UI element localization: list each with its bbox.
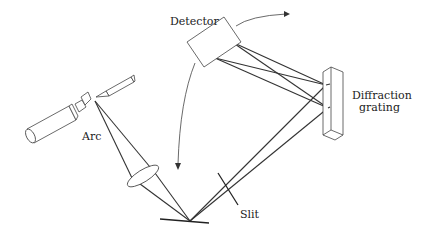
slit <box>218 173 238 205</box>
slit-label: Slit <box>240 208 260 221</box>
arc-label: Arc <box>81 130 101 143</box>
arrowhead-icon <box>175 163 181 170</box>
grating-label-line2: grating <box>359 101 400 114</box>
beams-detector-grating <box>215 42 328 108</box>
arrowhead-icon <box>284 11 290 17</box>
arc-lamp <box>23 92 91 145</box>
spectrometer-diagram: Detector Diffraction grating Arc Slit <box>0 0 423 250</box>
diffraction-grating <box>323 67 343 140</box>
beams-arc-mirror <box>95 101 190 221</box>
mirror <box>160 219 209 223</box>
electrode <box>96 75 135 97</box>
beams-grating-mirror <box>190 85 328 221</box>
detector-label: Detector <box>170 15 219 28</box>
